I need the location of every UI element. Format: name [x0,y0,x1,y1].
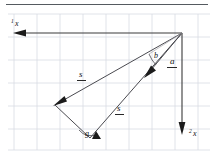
vector-diagram-figure: x 1 x 2 s s a b g [0,0,214,160]
vector-s-upper-label: s [79,69,83,79]
axis-x1-label: x [14,19,19,28]
angle-g-label: g [85,129,89,138]
axis-x2-label: x [192,129,197,138]
vector-a-label: a [170,56,175,66]
angle-b-label: b [154,51,158,60]
diagram-canvas: x 1 x 2 s s a b g [0,0,214,160]
axis-x2-subscript: 2 [189,128,192,134]
vector-s-lower-label: s [117,103,121,113]
axis-x1-subscript: 1 [11,18,14,24]
